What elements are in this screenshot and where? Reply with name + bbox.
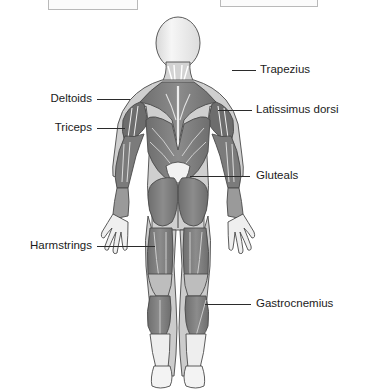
leader-line-harmstrings [97, 246, 155, 247]
label-gastrocnemius: Gastrocnemius [256, 297, 333, 310]
achilles-right [186, 334, 206, 368]
label-deltoids: Deltoids [0, 92, 92, 105]
hand-left [101, 214, 128, 254]
label-gluteals: Gluteals [256, 169, 298, 182]
human-body-figure [88, 16, 268, 392]
label-latissimus-dorsi: Latissimus dorsi [256, 103, 338, 116]
neck-shape [162, 62, 194, 82]
achilles-left [150, 334, 170, 368]
muscle-diagram-page: your back [0, 0, 372, 392]
foot-left [151, 366, 172, 388]
hand-right [228, 214, 255, 254]
leader-line-gastrocnemius [205, 304, 251, 305]
leader-line-triceps [97, 128, 125, 129]
forearm-right [227, 188, 243, 218]
head-shape [156, 17, 200, 69]
gluteus-left-muscle [148, 178, 178, 226]
gluteus-right-muscle [178, 178, 208, 226]
body-posterior-illustration [88, 16, 268, 392]
leader-line-latissimus-dorsi [218, 110, 252, 111]
answer-box-left[interactable] [48, 0, 138, 10]
leader-line-deltoids [97, 99, 130, 100]
foot-right [184, 366, 205, 388]
answer-box-right[interactable]: your back [220, 0, 318, 7]
label-harmstrings: Harmstrings [0, 239, 92, 252]
leader-line-gluteals [190, 176, 250, 177]
label-triceps: Triceps [0, 121, 92, 134]
forearm-left [113, 188, 129, 218]
leader-line-trapezius [232, 70, 256, 71]
label-trapezius: Trapezius [260, 63, 310, 76]
